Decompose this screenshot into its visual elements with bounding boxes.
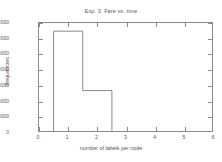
x-tick-label: 0 xyxy=(28,134,48,140)
histogram-path xyxy=(39,31,213,132)
plot-area xyxy=(38,22,213,132)
y-tick-label: 400000 xyxy=(0,66,9,72)
chart-container: Exp. 3: Fare vs. time frequencies number… xyxy=(0,0,222,162)
y-tick-label: 700000 xyxy=(0,19,9,25)
x-tick-label: 3 xyxy=(116,134,136,140)
x-tick-label: 5 xyxy=(174,134,194,140)
x-tick-label: 4 xyxy=(145,134,165,140)
y-tick-label: 200000 xyxy=(0,98,9,104)
histogram-step-line xyxy=(39,23,213,132)
x-tick-label: 1 xyxy=(57,134,77,140)
y-tick-label: 500000 xyxy=(0,50,9,56)
y-tick-label: 0 xyxy=(0,129,9,135)
x-tick-label: 2 xyxy=(86,134,106,140)
x-tick-label: 6 xyxy=(203,134,222,140)
chart-title: Exp. 3: Fare vs. time xyxy=(0,8,222,14)
y-tick-label: 300000 xyxy=(0,82,9,88)
x-axis-title: number of labels per node xyxy=(0,145,222,151)
y-tick-label: 600000 xyxy=(0,35,9,41)
y-tick-label: 100000 xyxy=(0,113,9,119)
